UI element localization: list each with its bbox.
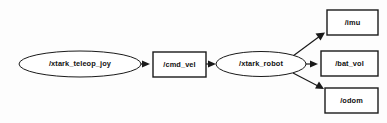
edge-robot-to-imu <box>293 33 325 57</box>
edge-robot-to-odom <box>293 73 324 89</box>
topic-cmd-vel[interactable]: /cmd_vel <box>153 52 206 77</box>
node-label: /xtark_teleop_joy <box>49 59 112 68</box>
topic-bat-vol[interactable]: /bat_vol <box>321 51 378 76</box>
node-xtark-teleop-joy[interactable]: /xtark_teleop_joy <box>19 51 141 77</box>
arrowhead-icon <box>316 33 326 41</box>
edge-robot-to-batvol <box>306 61 318 68</box>
edge-line <box>293 73 318 86</box>
edge-cmdvel-to-robot <box>206 61 216 68</box>
topic-label: /cmd_vel <box>163 60 195 69</box>
topic-label: /odom <box>340 96 363 105</box>
topic-odom[interactable]: /odom <box>325 88 378 113</box>
node-label: /xtark_robot <box>239 59 283 68</box>
topic-label: /bat_vol <box>335 59 364 68</box>
topic-imu[interactable]: /imu <box>327 10 378 35</box>
ros-graph-svg: /xtark_teleop_joy /xtark_robot /cmd_vel … <box>0 0 387 123</box>
edge-line <box>293 36 320 56</box>
ros-graph-canvas: /xtark_teleop_joy /xtark_robot /cmd_vel … <box>0 0 387 123</box>
arrowhead-icon <box>142 61 150 68</box>
arrowhead-icon <box>208 61 216 68</box>
edge-teleop-to-cmdvel <box>141 61 150 68</box>
arrowhead-icon <box>310 61 318 68</box>
node-xtark-robot[interactable]: /xtark_robot <box>216 52 306 77</box>
topic-label: /imu <box>345 18 361 27</box>
